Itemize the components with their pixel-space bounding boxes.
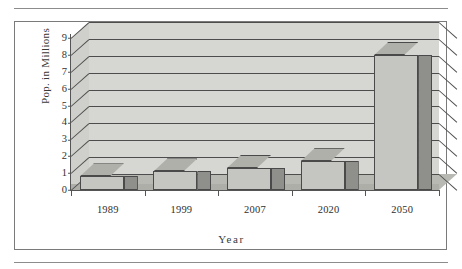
chart-frame: Pop. in Millions 0123456789 198919992007…: [14, 21, 447, 250]
page-rule-bottom: [14, 262, 448, 263]
gridline-right-wall: [439, 123, 458, 140]
x-tick-label: 2020: [299, 204, 359, 215]
bar-side-face: [124, 176, 138, 190]
bar[interactable]: [153, 171, 197, 190]
x-tick-label: 2050: [372, 204, 432, 215]
x-tick-mark: [365, 191, 366, 196]
bar[interactable]: [80, 176, 124, 190]
bar[interactable]: [374, 55, 418, 190]
bar-front-face: [153, 171, 197, 190]
gridline-right-wall: [439, 73, 458, 90]
gridline-right-wall: [439, 39, 458, 56]
bar-side-face: [418, 55, 432, 190]
bar-front-face: [301, 161, 345, 190]
x-tick-mark: [439, 191, 440, 196]
gridline-right-wall: [439, 22, 458, 39]
x-tick-label: 2007: [225, 204, 285, 215]
bar-side-face: [197, 171, 211, 190]
page-root: Pop. in Millions 0123456789 198919992007…: [0, 0, 462, 269]
bar-side-face: [345, 161, 359, 190]
page-rule-top: [14, 8, 448, 9]
gridline-right-wall: [439, 107, 458, 124]
x-tick-label: 1989: [78, 204, 138, 215]
gridline: [89, 39, 439, 40]
x-axis-line: [70, 190, 440, 191]
bar[interactable]: [301, 161, 345, 190]
x-axis-title: Year: [15, 233, 448, 245]
gridline-right-wall: [439, 56, 458, 73]
x-tick-label: 1999: [151, 204, 211, 215]
x-tick-mark: [145, 191, 146, 196]
bar-front-face: [374, 55, 418, 190]
bar-front-face: [227, 168, 271, 190]
x-tick-mark: [218, 191, 219, 196]
bar-front-face: [80, 176, 124, 190]
x-tick-mark: [71, 191, 72, 196]
gridline-right-wall: [439, 90, 458, 107]
gridline-right-wall: [439, 157, 458, 174]
bar[interactable]: [227, 168, 271, 190]
gridline-right-wall: [439, 140, 458, 157]
bar-side-face: [271, 168, 285, 190]
plot-area: 19891999200720202050: [15, 22, 448, 251]
gridline: [89, 22, 439, 23]
x-tick-mark: [292, 191, 293, 196]
